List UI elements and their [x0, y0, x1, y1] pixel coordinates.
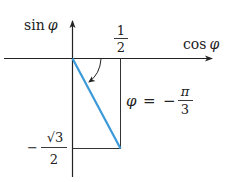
svg-text:=: = — [143, 92, 156, 110]
svg-text:2: 2 — [117, 40, 125, 55]
svg-text:1: 1 — [117, 23, 125, 38]
svg-text:2: 2 — [50, 152, 58, 167]
unit-vector — [73, 59, 121, 149]
x-tick-label: 1 2 — [114, 23, 128, 55]
svg-text:−: − — [163, 92, 176, 110]
svg-text:φ: φ — [126, 92, 137, 110]
svg-text:π: π — [180, 84, 190, 99]
x-axis-label: cosφ — [183, 36, 219, 52]
angle-arc-arrow-icon — [89, 59, 101, 82]
y-tick-label: − √3 2 — [27, 130, 67, 167]
svg-text:−: − — [27, 140, 38, 155]
y-axis-label: sinφ — [24, 17, 58, 33]
svg-text:√3: √3 — [47, 130, 64, 145]
svg-text:3: 3 — [181, 102, 189, 117]
angle-label: φ = − π 3 — [126, 84, 193, 117]
unit-vector-diagram: sinφ cosφ 1 2 − √3 2 φ = − π 3 — [0, 0, 243, 182]
